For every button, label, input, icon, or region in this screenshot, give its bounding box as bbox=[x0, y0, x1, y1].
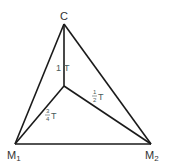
tension-label-m1: 3 4 T bbox=[45, 108, 57, 122]
vertex-label-c: C bbox=[60, 10, 68, 22]
svg-text:T: T bbox=[51, 111, 57, 121]
tension-label-m2: 1 2 T bbox=[92, 89, 104, 103]
edge-c-m2 bbox=[64, 24, 151, 144]
inner-lines bbox=[15, 24, 151, 144]
svg-text:1: 1 bbox=[93, 89, 97, 95]
vertex-label-m1: M1 bbox=[7, 149, 21, 163]
tension-triangle-diagram: C M1 M2 1T 1 2 T 3 4 T bbox=[0, 0, 169, 166]
svg-text:T: T bbox=[98, 92, 104, 102]
svg-text:3: 3 bbox=[46, 108, 50, 114]
vertex-label-m2: M2 bbox=[145, 149, 159, 163]
line-center-m2 bbox=[64, 86, 151, 144]
tension-label-c: 1T bbox=[56, 63, 70, 73]
svg-text:2: 2 bbox=[93, 97, 97, 103]
outer-triangle bbox=[15, 24, 151, 144]
edge-c-m1 bbox=[15, 24, 64, 144]
line-center-m1 bbox=[15, 86, 64, 144]
svg-text:4: 4 bbox=[46, 116, 50, 122]
